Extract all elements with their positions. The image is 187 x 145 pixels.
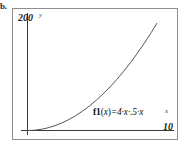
y-axis-max-label: 200 [18,12,33,23]
figure-root: b. 200 y x 10 f1(x)=4·x·.5·x [0,0,187,145]
x-axis-name-label: x [165,107,168,115]
function-name: f1 [93,107,101,117]
function-equation-label: f1(x)=4·x·.5·x [93,107,143,118]
figure-item-label: b. [0,1,7,11]
plot-frame: 200 y x 10 f1(x)=4·x·.5·x [12,8,178,140]
plot-canvas [13,9,177,139]
function-body: =4·x·.5·x [111,107,144,117]
y-axis-name-label: y [39,11,42,19]
x-axis-max-label: 10 [163,121,173,132]
